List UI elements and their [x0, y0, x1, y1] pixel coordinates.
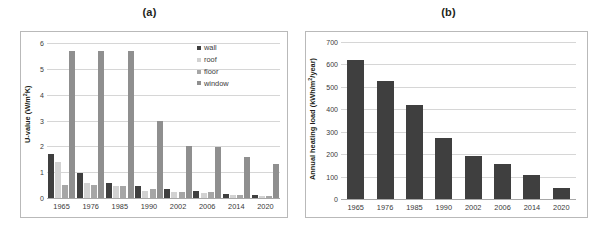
bar-heating-load-1985: [406, 105, 423, 199]
panel-a-title: (a): [0, 0, 299, 18]
bar-wall-2002: [164, 189, 170, 198]
panel-b-bar-group: [429, 42, 458, 199]
panel-b-ytick-700: 700: [326, 39, 338, 46]
panel-b-bar-group: [547, 42, 576, 199]
bar-heating-load-2014: [523, 175, 540, 199]
panel-a-y-axis-title-main: U-value (W/m: [23, 96, 32, 143]
legend-swatch-roof-icon: [197, 58, 201, 62]
panel-b-ytick-500: 500: [326, 83, 338, 90]
legend-label-floor: floor: [204, 68, 218, 75]
bar-heating-load-1976: [377, 81, 394, 199]
legend-item-floor[interactable]: floor: [197, 68, 229, 75]
panel-a-y-axis-title: U-value (W/m2K): [24, 55, 31, 173]
legend-swatch-window-icon: [197, 81, 201, 85]
bar-wall-1965: [48, 154, 54, 198]
panel-a-x-axis-labels: 19651976198519902002200620142020: [47, 198, 280, 211]
bar-heating-load-1990: [435, 138, 452, 199]
panel-b-ytick-400: 400: [326, 106, 338, 113]
bar-heating-load-2020: [553, 188, 570, 199]
panel-a-xlabel-2006: 2006: [193, 198, 222, 211]
bar-window-1985: [128, 51, 134, 198]
panel-b-plot-area: 700 600 500 400 300 200 100 0 1965197619…: [341, 42, 576, 199]
panel-b-bar-group: [459, 42, 488, 199]
panel-a-plot-area: 6 5 4 3 2 1 0 19651976198519902002200620…: [47, 43, 280, 198]
bar-roof-1990: [142, 191, 148, 198]
bar-window-1990: [157, 121, 163, 198]
panel-a-ytick-5: 5: [40, 65, 44, 72]
bar-floor-1985: [120, 186, 126, 198]
panel-a-ytick-6: 6: [40, 40, 44, 47]
panel-a-ytick-2: 2: [40, 143, 44, 150]
panel-a-bar-groups: [47, 43, 280, 198]
legend-item-wall[interactable]: wall: [197, 44, 229, 51]
bar-heating-load-2002: [465, 156, 482, 199]
bar-heating-load-1965: [347, 60, 364, 199]
legend-swatch-wall-icon: [197, 46, 201, 50]
legend-swatch-floor-icon: [197, 70, 201, 74]
bar-floor-1965: [62, 185, 68, 198]
bar-wall-2006: [193, 191, 199, 198]
legend-label-wall: wall: [204, 44, 217, 51]
bar-floor-1976: [91, 185, 97, 198]
legend-label-roof: roof: [204, 56, 217, 63]
panel-a: (a) U-value (W/m2K) 6 5 4 3 2 1: [0, 0, 299, 235]
panel-a-xlabel-2002: 2002: [164, 198, 193, 211]
panel-b-xlabel-2002: 2002: [459, 199, 488, 212]
legend-item-roof[interactable]: roof: [197, 56, 229, 63]
panel-b-ytick-200: 200: [326, 151, 338, 158]
panel-b-title: (b): [299, 0, 598, 18]
bar-floor-1990: [150, 189, 156, 198]
panel-b-xlabel-1976: 1976: [370, 199, 399, 212]
panel-a-bar-group: [105, 43, 134, 198]
panel-b-xlabel-2020: 2020: [547, 199, 576, 212]
panel-a-bar-group: [251, 43, 280, 198]
panel-b-y-axis-title-sup: 2: [307, 78, 313, 81]
panel-a-ytick-4: 4: [40, 91, 44, 98]
panel-b-x-axis-labels: 19651976198519902002200620142020: [341, 199, 576, 212]
panel-b-ytick-0: 0: [334, 196, 338, 203]
bar-window-1965: [69, 51, 75, 198]
bar-window-2014: [244, 157, 250, 198]
panel-b-ytick-300: 300: [326, 128, 338, 135]
panel-b-xlabel-1965: 1965: [341, 199, 370, 212]
bar-heating-load-2006: [494, 164, 511, 199]
bar-roof-1985: [113, 186, 119, 198]
panel-b-y-axis-title-tail: /year): [308, 58, 317, 78]
panel-a-legend: wallrooffloorwindow: [197, 44, 229, 87]
panel-a-xlabel-2014: 2014: [222, 198, 251, 211]
panel-b-bar-group: [370, 42, 399, 199]
panel-a-ytick-0: 0: [40, 195, 44, 202]
panel-b-y-axis-title-main: Annual heating load (kWh/m: [308, 81, 317, 180]
legend-label-window: window: [204, 80, 229, 87]
panel-b-bar-groups: [341, 42, 576, 199]
panel-a-xlabel-1965: 1965: [47, 198, 76, 211]
panel-b-bar-group: [517, 42, 546, 199]
panel-a-ytick-1: 1: [40, 169, 44, 176]
bar-roof-1965: [55, 162, 61, 198]
panel-a-xlabel-1990: 1990: [134, 198, 163, 211]
bar-window-2020: [273, 164, 279, 198]
panel-b-bar-group: [400, 42, 429, 199]
panel-b-xlabel-2006: 2006: [488, 199, 517, 212]
bar-window-1976: [98, 51, 104, 198]
panel-a-bar-group: [47, 43, 76, 198]
panel-a-bar-group: [76, 43, 105, 198]
panel-a-bar-group: [164, 43, 193, 198]
panel-a-xlabel-1976: 1976: [76, 198, 105, 211]
panel-b-ytick-100: 100: [326, 173, 338, 180]
panel-b-xlabel-1990: 1990: [429, 199, 458, 212]
panel-b-bar-group: [488, 42, 517, 199]
panel-a-ytick-3: 3: [40, 117, 44, 124]
panel-a-y-axis-title-tail: K): [23, 85, 32, 93]
bar-window-2002: [186, 146, 192, 198]
panel-b-xlabel-1985: 1985: [400, 199, 429, 212]
bar-wall-1976: [77, 173, 83, 198]
panel-b-y-axis-title: Annual heating load (kWh/m2/year): [309, 44, 316, 194]
panel-a-xlabel-2020: 2020: [251, 198, 280, 211]
panel-a-bar-group: [134, 43, 163, 198]
panel-b-xlabel-2014: 2014: [517, 199, 546, 212]
legend-item-window[interactable]: window: [197, 80, 229, 87]
panel-b-ytick-600: 600: [326, 61, 338, 68]
bar-roof-1976: [84, 183, 90, 198]
bar-wall-1985: [106, 183, 112, 199]
